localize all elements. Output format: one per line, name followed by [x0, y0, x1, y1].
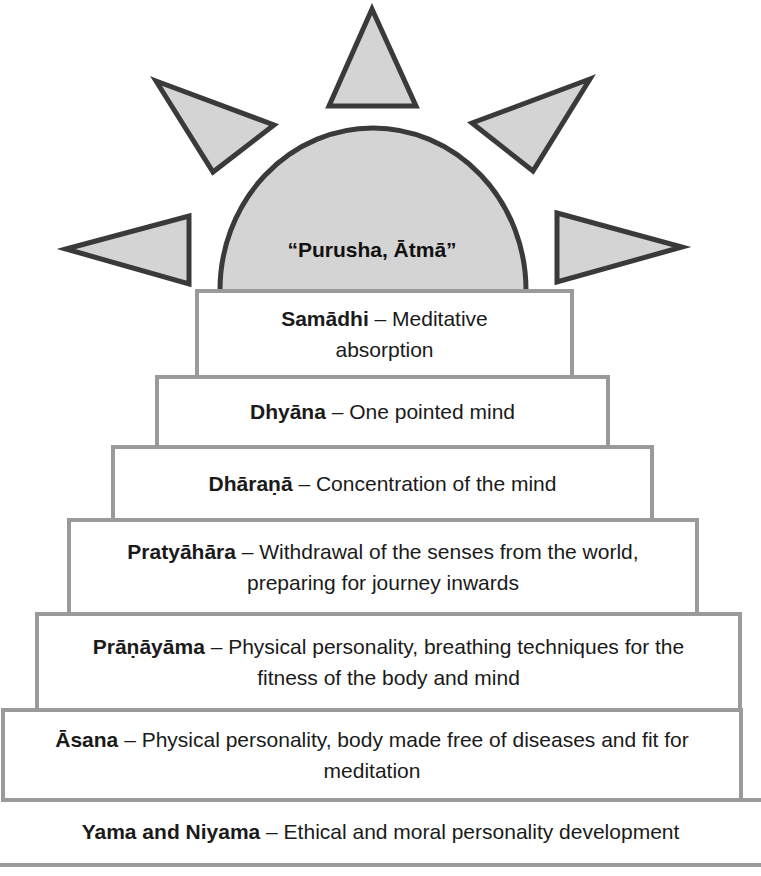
sun-ray-upper-left-icon [156, 81, 274, 172]
step-asana: Āsana – Physical personality, body made … [1, 708, 743, 802]
step-text: Dhyāna – One pointed mind [250, 396, 515, 428]
sun-disc [220, 128, 526, 300]
sun-label: “Purusha, Ātmā” [222, 238, 522, 262]
step-text: Yama and Niyama – Ethical and moral pers… [82, 820, 680, 844]
step-pranayama: Prāṇāyāma – Physical personality, breath… [35, 612, 742, 712]
step-samadhi: Samādhi – Meditative absorption [195, 289, 574, 379]
step-term: Samādhi [281, 307, 369, 330]
sun-ray-upper-right-icon [472, 79, 590, 171]
step-description: Concentration of the mind [316, 472, 556, 495]
step-term: Dhyāna [250, 400, 326, 423]
step-text: Prāṇāyāma – Physical personality, breath… [69, 631, 708, 694]
step-description: Withdrawal of the senses from the world,… [247, 540, 639, 595]
step-description: Ethical and moral personality developmen… [284, 820, 680, 843]
base-yama-niyama: Yama and Niyama – Ethical and moral pers… [0, 800, 761, 867]
sun-ray-left-icon [66, 216, 189, 284]
step-term: Yama and Niyama [82, 820, 261, 843]
step-description: Physical personality, body made free of … [142, 728, 689, 783]
step-text: Āsana – Physical personality, body made … [35, 724, 709, 787]
step-description: One pointed mind [349, 400, 515, 423]
step-term: Āsana [55, 728, 118, 751]
step-text: Pratyāhāra – Withdrawal of the senses fr… [121, 536, 645, 599]
step-description: Physical personality, breathing techniqu… [228, 635, 684, 690]
step-dhyana: Dhyāna – One pointed mind [155, 375, 610, 449]
step-term: Dhāraṇā [209, 472, 293, 495]
step-text: Samādhi – Meditative absorption [239, 303, 530, 366]
step-pratyahara: Pratyāhāra – Withdrawal of the senses fr… [67, 518, 699, 616]
step-text: Dhāraṇā – Concentration of the mind [209, 468, 557, 500]
sun-ray-top-icon [329, 9, 416, 106]
step-term: Pratyāhāra [127, 540, 236, 563]
sun-ray-right-icon [557, 213, 682, 282]
step-term: Prāṇāyāma [93, 635, 205, 658]
step-dharana: Dhāraṇā – Concentration of the mind [111, 445, 654, 522]
